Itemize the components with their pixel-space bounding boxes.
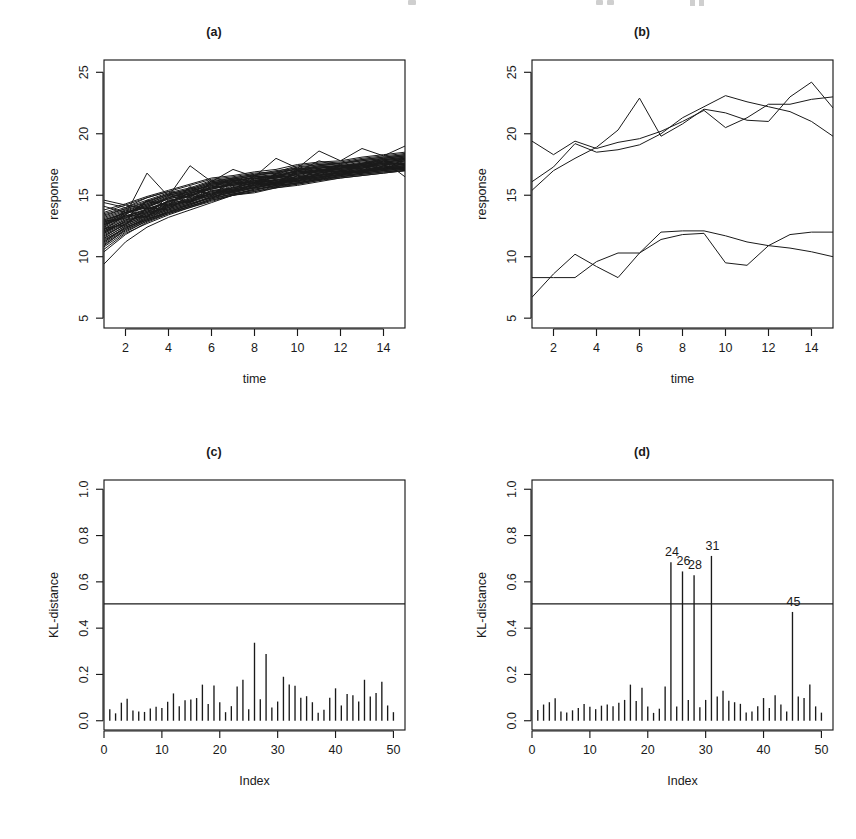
y-tick-label: 5 (77, 315, 91, 322)
y-tick-label: 25 (505, 65, 519, 79)
x-tick-label: 40 (329, 743, 343, 757)
spike-label-28: 28 (688, 558, 702, 572)
spike-group (110, 643, 394, 721)
spike-label-31: 31 (705, 539, 719, 553)
y-tick-label: 5 (505, 315, 519, 322)
y-tick-label: 20 (77, 127, 91, 141)
x-tick-label: 8 (679, 341, 686, 355)
y-tick-label: 10 (505, 250, 519, 264)
y-tick-label: 0.6 (77, 573, 91, 590)
x-tick-label: 14 (377, 341, 391, 355)
x-tick-label: 50 (814, 743, 828, 757)
x-tick-label: 20 (213, 743, 227, 757)
panel-d-plot: (d) 01020304050Index0.00.20.40.60.81.0KL… (428, 420, 856, 839)
x-tick-label: 8 (251, 341, 258, 355)
y-axis-label: KL-distance (47, 572, 61, 638)
trajectory-line (532, 232, 833, 297)
x-tick-label: 14 (805, 341, 819, 355)
y-tick-label: 10 (77, 250, 91, 264)
x-axis-label: Index (239, 774, 270, 788)
panel-b-title: (b) (634, 25, 650, 39)
panel-c-title: (c) (206, 445, 221, 459)
plot-box (104, 60, 405, 328)
y-tick-label: 15 (505, 188, 519, 202)
y-tick-label: 15 (77, 188, 91, 202)
trajectory-group (532, 82, 833, 297)
x-tick-label: 4 (165, 341, 172, 355)
x-tick-label: 2 (122, 341, 129, 355)
x-tick-label: 30 (699, 743, 713, 757)
y-tick-label: 0.8 (77, 527, 91, 544)
x-tick-label: 10 (719, 341, 733, 355)
x-tick-label: 0 (101, 743, 108, 757)
trajectory-line (532, 97, 833, 155)
trajectory-line (532, 96, 833, 182)
panel-d: (d) 01020304050Index0.00.20.40.60.81.0KL… (428, 420, 856, 839)
y-axis-label: response (475, 168, 489, 219)
y-tick-label: 20 (505, 127, 519, 141)
x-tick-label: 10 (155, 743, 169, 757)
x-tick-label: 30 (271, 743, 285, 757)
x-tick-label: 10 (291, 341, 305, 355)
y-tick-label: 0.4 (77, 619, 91, 636)
panel-a-plot: (a) 2468101214time510152025response (0, 0, 428, 419)
y-tick-label: 0.0 (505, 712, 519, 729)
y-tick-label: 0.4 (505, 619, 519, 636)
panel-a-title: (a) (206, 25, 221, 39)
x-tick-label: 6 (636, 341, 643, 355)
x-tick-label: 12 (762, 341, 776, 355)
figure-panel-grid: (a) 2468101214time510152025response (b) … (0, 0, 856, 839)
trajectory-line (532, 231, 833, 278)
spike-group (538, 556, 822, 721)
x-axis-label: Index (667, 774, 698, 788)
y-axis-label: KL-distance (475, 572, 489, 638)
y-tick-label: 0.0 (77, 712, 91, 729)
x-tick-label: 20 (641, 743, 655, 757)
x-tick-label: 40 (757, 743, 771, 757)
spike-label-45: 45 (787, 595, 801, 609)
panel-b-plot: (b) 2468101214time510152025response (428, 0, 856, 419)
y-tick-label: 25 (77, 65, 91, 79)
x-tick-label: 0 (529, 743, 536, 757)
panel-a: (a) 2468101214time510152025response (0, 0, 428, 419)
x-tick-label: 12 (334, 341, 348, 355)
y-tick-label: 0.2 (505, 666, 519, 683)
y-tick-label: 0.8 (505, 527, 519, 544)
x-axis-label: time (671, 372, 695, 386)
x-tick-label: 2 (550, 341, 557, 355)
y-tick-label: 0.2 (77, 666, 91, 683)
panel-c: (c) 01020304050Index0.00.20.40.60.81.0KL… (0, 420, 428, 839)
x-axis-label: time (243, 372, 267, 386)
y-axis-label: response (47, 168, 61, 219)
plot-box (532, 60, 833, 328)
x-tick-label: 50 (386, 743, 400, 757)
trajectory-group (104, 146, 405, 264)
y-tick-label: 0.6 (505, 573, 519, 590)
x-tick-label: 4 (593, 341, 600, 355)
x-tick-label: 10 (583, 743, 597, 757)
y-tick-label: 1.0 (77, 481, 91, 498)
trajectory-line (532, 82, 833, 190)
y-tick-label: 1.0 (505, 481, 519, 498)
x-tick-label: 6 (208, 341, 215, 355)
panel-c-plot: (c) 01020304050Index0.00.20.40.60.81.0KL… (0, 420, 428, 839)
panel-d-title: (d) (634, 445, 650, 459)
panel-b: (b) 2468101214time510152025response (428, 0, 856, 419)
